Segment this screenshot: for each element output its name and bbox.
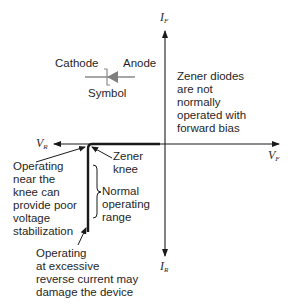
zener-diode-symbol-icon (85, 69, 135, 85)
zener-knee-label: Zener knee (113, 150, 143, 176)
axis-subscript: R (164, 266, 168, 274)
axis-subscript: R (43, 143, 47, 151)
zener-characteristic-diagram: IF IR VF VR Cathode Anode Symbol Zener d… (0, 0, 288, 305)
normal-range-label: Normal operating range (102, 185, 150, 224)
forward-bias-note: Zener diodes are not normally operated w… (177, 70, 246, 135)
axis-subscript: F (275, 155, 279, 163)
cathode-label: Cathode (55, 57, 98, 70)
axis-label-forward-current: IF (160, 10, 168, 25)
normal-range-brace (93, 165, 101, 218)
axis-subscript: F (164, 17, 168, 25)
excess-current-warning: Operating at excessive reverse current m… (36, 247, 138, 299)
anode-label: Anode (123, 57, 156, 70)
axis-label-forward-voltage: VF (268, 148, 280, 163)
axis-label-reverse-current: IR (160, 259, 168, 274)
symbol-caption: Symbol (88, 87, 126, 100)
axis-label-reverse-voltage: VR (36, 136, 48, 151)
knee-warning-note: Operating near the knee can provide poor… (13, 160, 77, 238)
